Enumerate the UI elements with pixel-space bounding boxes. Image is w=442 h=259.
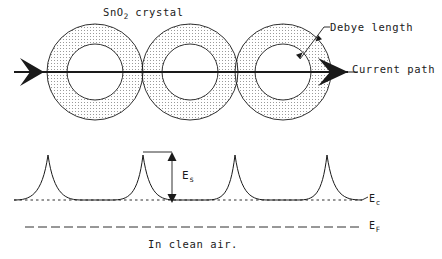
barrier-energy-label: Es [182, 170, 194, 184]
crystal-label-suffix: crystal [128, 6, 183, 18]
fermi-level-label: EF [369, 221, 380, 233]
crystal-label-base: SnO [103, 6, 124, 18]
barrier-energy-subscript: s [189, 175, 194, 184]
fermi-level-base: E [369, 220, 376, 231]
debye-length-label: Debye length [330, 22, 413, 33]
current-path-label: Current path [352, 64, 435, 75]
conduction-band-base: E [369, 193, 376, 204]
fermi-level-subscript: F [376, 225, 380, 234]
conduction-band-subscript: c [376, 198, 380, 207]
crystal-label: SnO2 crystal [103, 7, 184, 21]
conduction-band-label: Ec [369, 194, 380, 206]
figure-container: SnO2 crystal Debye length Current path E… [0, 0, 442, 259]
figure-caption: In clean air. [148, 239, 238, 250]
